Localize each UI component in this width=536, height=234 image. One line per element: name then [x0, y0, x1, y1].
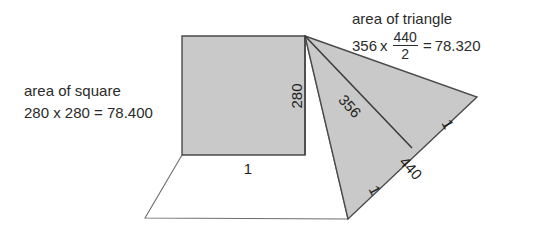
triangle-callout-expression: 356 x 440 2 = 78.320 — [352, 30, 481, 62]
fraction-numerator: 440 — [393, 30, 418, 44]
dimension-label-280: 280 — [288, 83, 305, 108]
equals-sign: = — [423, 35, 432, 57]
triangle-area-callout: area of triangle 356 x 440 2 = 78.320 — [352, 8, 481, 61]
dimension-label-1-square-bottom: 1 — [244, 160, 252, 177]
triangle-callout-title: area of triangle — [352, 8, 481, 30]
triangle-area-result: 78.320 — [435, 35, 481, 57]
fraction-440-over-2: 440 2 — [393, 30, 418, 62]
square-callout-expression: 280 x 280 = 78.400 — [24, 102, 153, 124]
multiplication-sign: x — [380, 35, 388, 57]
square-area-callout: area of square 280 x 280 = 78.400 — [24, 80, 153, 124]
triangle-factor: 356 — [352, 35, 377, 57]
fraction-denominator: 2 — [401, 47, 409, 61]
square-callout-title: area of square — [24, 80, 153, 102]
